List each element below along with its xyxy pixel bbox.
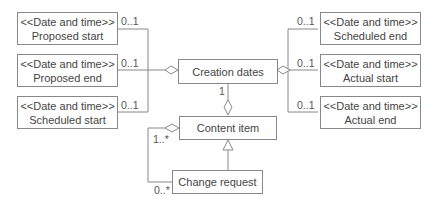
class-name: Proposed end <box>33 71 102 85</box>
creation-dates-box: Creation dates <box>178 59 278 84</box>
class-name: Proposed start <box>32 29 104 43</box>
content-item-box: Content item <box>179 116 277 140</box>
aggregation-diamond-content <box>224 100 232 115</box>
generalization-triangle <box>223 140 233 150</box>
stereotype-label: <<Date and time>> <box>20 57 114 71</box>
aggregation-diamond-self <box>165 124 179 132</box>
proposed-end-box: <<Date and time>> Proposed end <box>17 54 118 87</box>
multiplicity-label: 0..1 <box>121 99 139 111</box>
stereotype-label: <<Date and time>> <box>20 99 114 113</box>
stereotype-label: <<Date and time>> <box>323 99 417 113</box>
change-request-box: Change request <box>172 170 263 194</box>
stereotype-label: <<Date and time>> <box>323 15 417 29</box>
class-name: Scheduled start <box>29 113 105 127</box>
class-name: Content item <box>197 121 259 135</box>
multiplicity-label: 1..* <box>153 133 169 145</box>
multiplicity-label: 0..1 <box>297 57 315 69</box>
proposed-start-box: <<Date and time>> Proposed start <box>17 12 118 45</box>
scheduled-start-box: <<Date and time>> Scheduled start <box>17 96 118 129</box>
class-name: Creation dates <box>192 65 264 79</box>
class-name: Actual end <box>345 113 397 127</box>
class-name: Change request <box>178 175 256 189</box>
multiplicity-label: 1 <box>219 85 225 97</box>
multiplicity-label: 0..1 <box>297 15 315 27</box>
actual-start-box: <<Date and time>> Actual start <box>320 54 421 87</box>
multiplicity-label: 0..1 <box>121 15 139 27</box>
actual-end-box: <<Date and time>> Actual end <box>320 96 421 129</box>
class-name: Actual start <box>343 71 398 85</box>
stereotype-label: <<Date and time>> <box>323 57 417 71</box>
aggregation-diamond-left <box>165 66 178 74</box>
scheduled-end-box: <<Date and time>> Scheduled end <box>320 12 421 45</box>
class-name: Scheduled end <box>334 29 407 43</box>
stereotype-label: <<Date and time>> <box>20 15 114 29</box>
multiplicity-label: 0..1 <box>297 99 315 111</box>
multiplicity-label: 0..1 <box>121 57 139 69</box>
multiplicity-label: 0..* <box>154 184 170 196</box>
